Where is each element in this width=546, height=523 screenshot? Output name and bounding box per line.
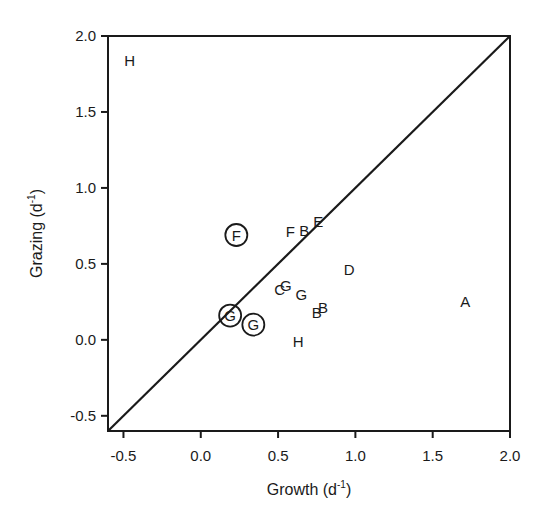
y-axis-label-main: Grazing (d xyxy=(28,203,45,278)
data-point: E xyxy=(313,213,323,230)
x-axis-label: Growth (d-1) xyxy=(267,479,351,498)
data-point-circled: F xyxy=(225,224,247,246)
x-tick-label: 1.0 xyxy=(345,447,366,464)
data-point: G xyxy=(280,277,292,294)
y-tick-label: 1.5 xyxy=(75,103,96,120)
data-point-circled: G xyxy=(219,305,241,327)
x-axis-label-close: ) xyxy=(346,481,351,498)
data-point: H xyxy=(293,333,304,350)
y-tick-label: -0.5 xyxy=(70,407,96,424)
y-tick-label: 0.0 xyxy=(75,331,96,348)
x-tick-label: 2.0 xyxy=(500,447,521,464)
data-point-label: H xyxy=(293,333,304,350)
data-point: B xyxy=(318,299,328,316)
data-point-label: E xyxy=(313,213,323,230)
x-tick-label: -0.5 xyxy=(111,447,137,464)
data-point-label: F xyxy=(232,227,241,244)
data-point-label: D xyxy=(344,261,355,278)
data-point: F xyxy=(286,223,295,240)
x-axis-label-main: Growth (d xyxy=(267,481,337,498)
x-tick-label: 1.5 xyxy=(422,447,443,464)
data-point-circled: G xyxy=(242,314,264,336)
y-axis-label-close: ) xyxy=(28,189,45,194)
data-point-label: G xyxy=(295,286,307,303)
data-point-label: A xyxy=(460,293,470,310)
x-tick-label: 0.5 xyxy=(268,447,289,464)
data-point-label: B xyxy=(318,299,328,316)
data-point: A xyxy=(460,293,470,310)
data-point-label: G xyxy=(248,316,260,333)
y-tick-label: 2.0 xyxy=(75,27,96,44)
y-axis: -0.50.00.51.01.52.0 xyxy=(70,27,108,424)
data-point-label: G xyxy=(280,277,292,294)
x-axis: -0.50.00.51.01.52.0 xyxy=(111,431,521,464)
data-points: HFFBEDCGGBBAGGH xyxy=(124,52,470,350)
data-point: G xyxy=(295,286,307,303)
scatter-chart: -0.50.00.51.01.52.0 -0.50.00.51.01.52.0 … xyxy=(0,0,546,523)
data-point: D xyxy=(344,261,355,278)
data-point: H xyxy=(124,52,135,69)
data-point-label: H xyxy=(124,52,135,69)
data-point-label: F xyxy=(286,223,295,240)
y-tick-label: 0.5 xyxy=(75,255,96,272)
y-tick-label: 1.0 xyxy=(75,179,96,196)
data-point: B xyxy=(299,222,309,239)
x-tick-label: 0.0 xyxy=(190,447,211,464)
data-point-label: B xyxy=(299,222,309,239)
y-axis-label: Grazing (d-1) xyxy=(26,189,45,278)
data-point-label: G xyxy=(224,307,236,324)
